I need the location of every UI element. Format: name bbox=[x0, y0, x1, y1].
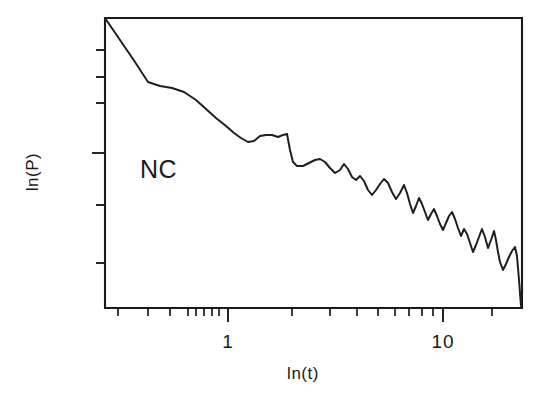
series-annotation-nc: NC bbox=[140, 155, 177, 183]
y-axis-tick-group bbox=[92, 50, 105, 263]
figure-container: 1 10 ln(t) ln(P) NC bbox=[0, 0, 551, 395]
x-axis-title: ln(t) bbox=[287, 364, 319, 383]
x-axis-minor-tick-group bbox=[118, 308, 492, 316]
x-tick-label-1: 1 bbox=[222, 331, 234, 352]
y-axis-title: ln(P) bbox=[23, 153, 42, 191]
x-axis-major-tick-group bbox=[228, 308, 443, 322]
x-tick-label-10: 10 bbox=[431, 331, 454, 352]
power-spectrum-chart: 1 10 ln(t) ln(P) NC bbox=[0, 0, 551, 395]
